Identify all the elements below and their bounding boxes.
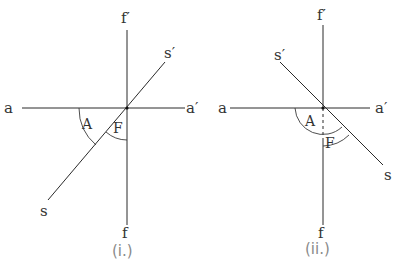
label-a-prime: a′ [186, 99, 199, 117]
label-angle-f: F [113, 120, 123, 136]
label-s: s [40, 202, 48, 220]
label-s-prime: s′ [164, 44, 176, 62]
label-angle-a: A [81, 116, 93, 132]
label-angle-f: F [325, 135, 335, 151]
label-a-prime: a′ [375, 99, 388, 117]
label-f: f [122, 224, 129, 242]
intersection-point [321, 106, 324, 109]
figure-i: a a′ f′ f s s′ A F (i.) [4, 9, 199, 260]
label-s-prime: s′ [274, 46, 286, 64]
label-s: s [384, 166, 392, 184]
line-s-s-prime [48, 62, 165, 200]
label-f-prime: f′ [317, 6, 327, 24]
label-a: a [4, 99, 13, 117]
figure-ii: a a′ f′ f s s′ A F (ii.) [218, 6, 392, 258]
caption-ii: (ii.) [305, 240, 330, 258]
caption-i: (i.) [112, 242, 133, 260]
intersection-point [125, 106, 128, 109]
label-angle-a: A [304, 113, 316, 129]
label-f-prime: f′ [121, 9, 131, 27]
diagram-canvas: a a′ f′ f s s′ A F (i.) a a′ f′ f s s′ A… [0, 0, 398, 263]
label-a: a [218, 99, 227, 117]
angle-a-arc [295, 108, 342, 134]
